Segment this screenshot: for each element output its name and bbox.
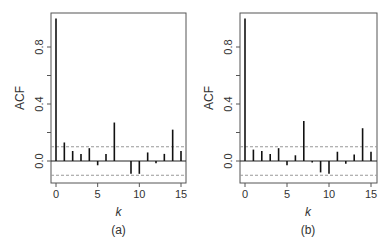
plot-frame xyxy=(51,13,186,183)
x-tick-label: 10 xyxy=(133,188,145,200)
plot-frame xyxy=(240,13,377,183)
x-tick-label: 5 xyxy=(284,188,290,200)
y-axis-label: ACF xyxy=(202,86,216,110)
x-tick-label: 0 xyxy=(242,188,248,200)
y-axis-label: ACF xyxy=(13,86,27,110)
y-tick-label: 0.8 xyxy=(33,39,45,54)
x-tick-label: 15 xyxy=(365,188,377,200)
y-tick-label: 0.0 xyxy=(33,153,45,168)
panel-caption: (a) xyxy=(111,223,126,237)
y-tick-label: 0.8 xyxy=(222,39,234,54)
acf-panel-b: 0.00.40.8051015ACFk(b) xyxy=(202,13,377,237)
x-axis-label: k xyxy=(116,205,123,219)
panel-caption: (b) xyxy=(301,223,316,237)
x-tick-label: 5 xyxy=(95,188,101,200)
x-tick-label: 15 xyxy=(175,188,187,200)
acf-panel-a: 0.00.40.8051015ACFk(a) xyxy=(13,13,187,237)
y-tick-label: 0.4 xyxy=(33,96,45,111)
x-tick-label: 10 xyxy=(323,188,335,200)
x-axis-label: k xyxy=(305,205,312,219)
acf-figure: 0.00.40.8051015ACFk(a)0.00.40.8051015ACF… xyxy=(0,0,391,243)
y-tick-label: 0.0 xyxy=(222,153,234,168)
y-tick-label: 0.4 xyxy=(222,96,234,111)
x-tick-label: 0 xyxy=(53,188,59,200)
